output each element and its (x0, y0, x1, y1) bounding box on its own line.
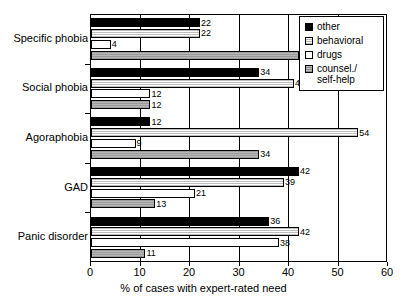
legend-label-other: other (317, 21, 340, 32)
bar-value-other-4: 42 (300, 166, 310, 176)
x-tick-label-20: 20 (174, 266, 204, 279)
x-tick-label-0: 0 (75, 266, 105, 279)
bar-other-5 (91, 217, 269, 226)
bar-value-counsel-self-help-4: 13 (156, 199, 166, 209)
y-category-label-gad: GAD (64, 181, 88, 194)
bar-value-other-1: 22 (201, 18, 211, 28)
y-group-tick-2 (85, 113, 90, 114)
bar-value-behavioral-1: 22 (201, 28, 211, 38)
bar-other-2 (91, 68, 259, 77)
y-category-label-agoraphobia: Agoraphobia (26, 131, 88, 144)
bar-drugs-4 (91, 189, 195, 198)
bar-behavioral-1 (91, 29, 200, 38)
bar-value-other-2: 34 (260, 67, 270, 77)
bar-behavioral-4 (91, 178, 284, 187)
legend-item-drugs: drugs (305, 49, 379, 60)
x-axis-title: % of cases with expert-rated need (0, 282, 407, 295)
bar-counsel-self-help-1 (91, 51, 299, 60)
legend-item-counsel-self-help: counsel./self-help (305, 63, 379, 85)
bar-value-counsel-self-help-3: 34 (260, 149, 270, 159)
bar-other-3 (91, 117, 150, 126)
bar-value-behavioral-3: 54 (359, 128, 369, 138)
bar-value-other-3: 12 (151, 117, 161, 127)
bar-value-counsel-self-help-2: 12 (151, 100, 161, 110)
x-tick-label-60: 60 (372, 266, 402, 279)
legend-item-other: other (305, 21, 379, 32)
legend-item-behavioral: behavioral (305, 35, 379, 46)
bar-drugs-5 (91, 238, 279, 247)
legend-swatch-counsel-self-help (305, 65, 313, 73)
y-group-tick-1 (85, 64, 90, 65)
bar-value-drugs-2: 12 (151, 89, 161, 99)
bar-counsel-self-help-2 (91, 100, 150, 109)
bar-chart: 0102030405060 Specific phobiaSocial phob… (0, 0, 407, 300)
bar-drugs-2 (91, 89, 150, 98)
bar-value-counsel-self-help-5: 11 (146, 248, 155, 258)
x-tick-label-40: 40 (273, 266, 303, 279)
legend-swatch-other (305, 23, 313, 31)
legend-swatch-drugs (305, 51, 313, 59)
y-category-label-panic-disorder: Panic disorder (18, 230, 88, 243)
bar-value-drugs-3: 9 (137, 138, 142, 148)
bar-counsel-self-help-4 (91, 199, 155, 208)
bar-behavioral-5 (91, 227, 299, 236)
x-tick-label-10: 10 (125, 266, 155, 279)
bar-drugs-3 (91, 139, 136, 148)
bar-value-drugs-4: 21 (196, 188, 206, 198)
bar-value-drugs-5: 38 (280, 238, 290, 248)
x-tick-label-30: 30 (224, 266, 254, 279)
y-group-tick-3 (85, 163, 90, 164)
bar-value-other-5: 36 (270, 216, 280, 226)
bar-value-behavioral-5: 42 (300, 227, 310, 237)
bar-other-1 (91, 18, 200, 27)
legend-label-counsel-self-help: counsel./self-help (317, 63, 357, 85)
legend-label-behavioral: behavioral (317, 35, 363, 46)
bar-behavioral-2 (91, 79, 294, 88)
bar-drugs-1 (91, 40, 111, 49)
bar-counsel-self-help-5 (91, 249, 145, 258)
bar-other-4 (91, 167, 299, 176)
x-tick-label-50: 50 (323, 266, 353, 279)
y-category-label-specific-phobia: Specific phobia (13, 32, 88, 45)
bar-value-behavioral-4: 39 (285, 177, 295, 187)
chart-legend: other behavioral drugs counsel./self-hel… (299, 16, 384, 91)
bar-value-drugs-1: 4 (112, 39, 117, 49)
bar-behavioral-3 (91, 128, 358, 137)
y-category-label-social-phobia: Social phobia (22, 81, 88, 94)
bar-counsel-self-help-3 (91, 150, 259, 159)
legend-swatch-behavioral (305, 37, 313, 45)
y-group-tick-4 (85, 212, 90, 213)
legend-label-drugs: drugs (317, 49, 342, 60)
